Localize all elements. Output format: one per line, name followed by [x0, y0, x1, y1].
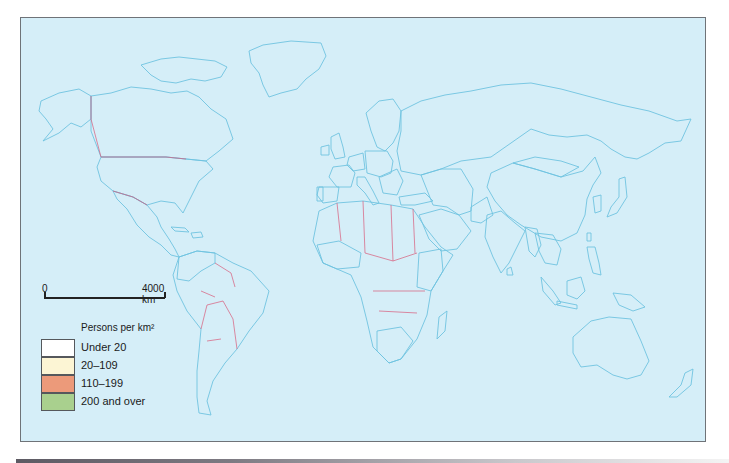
region-australia: [573, 317, 649, 379]
scale-bar: 0 4000 km: [44, 283, 168, 305]
region-west-africa: [317, 241, 361, 269]
region-arabia: [419, 209, 471, 251]
region-new-guinea: [613, 293, 645, 311]
legend-swatch: [41, 339, 75, 357]
region-uk: [331, 133, 345, 159]
region-france: [329, 165, 355, 187]
region-japan: [607, 177, 627, 217]
region-canada: [91, 87, 233, 161]
region-alaska: [39, 89, 91, 141]
region-scandinavia: [366, 99, 401, 151]
region-middle-east: [421, 169, 473, 215]
legend-swatch: [41, 357, 75, 375]
legend-item-under-20: Under 20: [41, 339, 241, 357]
region-arctic-islands: [141, 57, 227, 83]
region-taiwan: [587, 233, 591, 241]
scale-tick-start: [44, 292, 46, 298]
region-turkey: [399, 193, 433, 205]
region-colombia-venezuela: [177, 251, 215, 281]
region-usa: [97, 157, 213, 213]
region-ireland: [321, 145, 329, 155]
region-greenland: [249, 41, 326, 97]
region-east-africa: [417, 249, 443, 291]
scale-tick-end: [164, 292, 166, 298]
region-benelux-germany: [347, 153, 365, 171]
region-borneo: [567, 277, 585, 299]
legend-label: 200 and over: [81, 395, 145, 407]
region-mexico: [113, 191, 179, 257]
region-myanmar: [525, 227, 541, 257]
region-korea: [593, 195, 601, 213]
region-cuba: [171, 227, 189, 232]
bottom-divider-bar: [16, 459, 729, 463]
legend-item-200-and-over: 200 and over: [41, 393, 241, 411]
legend-swatch: [41, 393, 75, 411]
region-russia: [397, 83, 691, 175]
legend-label: Under 20: [81, 341, 126, 353]
region-mongolia: [513, 157, 579, 177]
legend-label: 110–199: [81, 377, 123, 389]
region-sri-lanka: [507, 267, 513, 275]
region-southern-africa: [377, 327, 413, 363]
region-africa: [313, 201, 453, 363]
region-china: [487, 157, 601, 241]
region-pakistan: [471, 197, 493, 223]
legend-label: 20–109: [81, 359, 118, 371]
legend-item-110-199: 110–199: [41, 375, 241, 393]
legend-item-20-109: 20–109: [41, 357, 241, 375]
region-india: [485, 211, 525, 273]
region-madagascar: [437, 311, 447, 339]
region-philippines: [587, 247, 601, 275]
region-hispaniola: [191, 232, 203, 238]
legend-title: Persons per km²: [81, 322, 154, 333]
scale-line: [44, 297, 165, 299]
world-map: 0 4000 km Persons per km² Under 20 20–10…: [20, 17, 706, 442]
region-new-zealand: [669, 369, 693, 397]
legend-swatch: [41, 375, 75, 393]
